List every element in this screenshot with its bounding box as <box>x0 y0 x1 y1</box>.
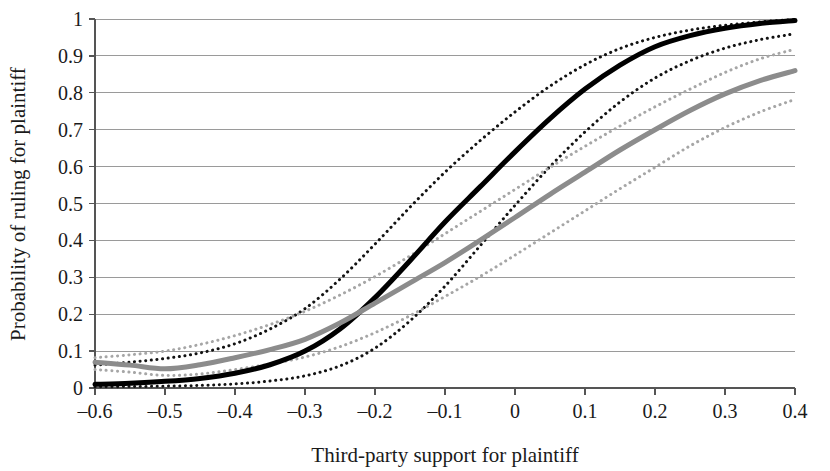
y-tick-label-4: 0.4 <box>58 229 83 251</box>
y-tick-label-0: 0 <box>73 377 83 399</box>
y-tick-labels: 00.10.20.30.40.50.60.70.80.91 <box>58 8 83 399</box>
x-tick-label-9: 0.3 <box>713 400 738 422</box>
y-axis-title: Probability of ruling for plaintiff <box>6 67 30 341</box>
chart-figure: –0.6–0.5–0.4–0.3–0.2–0.100.10.20.30.4 00… <box>0 0 830 471</box>
x-tick-label-3: –0.3 <box>287 400 323 422</box>
y-tick-label-10: 1 <box>73 8 83 30</box>
x-tick-label-1: –0.5 <box>147 400 183 422</box>
x-tick-label-5: –0.1 <box>427 400 463 422</box>
y-tick-label-8: 0.8 <box>58 82 83 104</box>
x-axis-title: Third-party support for plaintiff <box>311 443 578 467</box>
x-tick-label-6: 0 <box>510 400 520 422</box>
x-tick-label-2: –0.4 <box>217 400 253 422</box>
y-tick-label-7: 0.7 <box>58 119 83 141</box>
y-tick-label-3: 0.3 <box>58 266 83 288</box>
x-tick-label-8: 0.2 <box>643 400 668 422</box>
x-tick-label-10: 0.4 <box>783 400 808 422</box>
x-tick-label-0: –0.6 <box>77 400 113 422</box>
chart-background <box>0 0 830 471</box>
y-tick-label-1: 0.1 <box>58 340 83 362</box>
y-tick-label-9: 0.9 <box>58 45 83 67</box>
x-tick-label-7: 0.1 <box>573 400 598 422</box>
x-tick-label-4: –0.2 <box>357 400 393 422</box>
y-tick-label-6: 0.6 <box>58 156 83 178</box>
y-tick-label-2: 0.2 <box>58 303 83 325</box>
y-tick-label-5: 0.5 <box>58 193 83 215</box>
chart-canvas: –0.6–0.5–0.4–0.3–0.2–0.100.10.20.30.4 00… <box>0 0 830 471</box>
